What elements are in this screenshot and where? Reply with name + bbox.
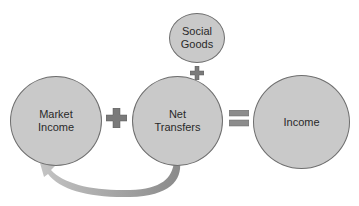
social-goods-node: Social Goods [169,13,225,63]
plus-icon [106,108,127,128]
social-goods-label: Social Goods [181,25,213,51]
income-label: Income [283,116,319,129]
net-transfers-node: Net Transfers [132,76,223,166]
curved-arrow-icon [40,162,180,197]
equals-icon [229,110,249,127]
income-node: Income [253,75,350,169]
net-transfers-label: Net Transfers [154,108,200,134]
market-income-label: Market Income [38,108,74,134]
market-income-node: Market Income [10,76,102,166]
